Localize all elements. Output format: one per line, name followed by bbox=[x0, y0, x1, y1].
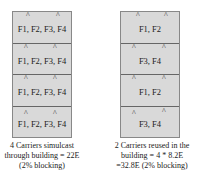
floor-label: F1, F2, F3, F4 bbox=[13, 56, 71, 66]
antenna-icon: ^ bbox=[56, 12, 60, 20]
caption-line: building = 4 * 8.2E bbox=[102, 151, 202, 161]
floor: ^^F1, F2, F3, F4 bbox=[13, 12, 71, 44]
floor-label: F3, F4 bbox=[121, 56, 179, 66]
antenna-icon: ^ bbox=[132, 44, 136, 52]
floor-label: F1, F2 bbox=[121, 87, 179, 97]
caption-line: (2% blocking) bbox=[0, 161, 92, 171]
antenna-icon: ^ bbox=[132, 110, 136, 118]
floor: ^^F1, F2, F3, F4 bbox=[13, 107, 71, 139]
caption-line: 4 Carriers simulcast bbox=[0, 141, 92, 151]
caption-line: 2 Carriers reused in the bbox=[102, 141, 202, 151]
antenna-icon: ^ bbox=[132, 75, 136, 83]
antenna-icon: ^ bbox=[136, 12, 140, 20]
antenna-icon: ^ bbox=[24, 75, 28, 83]
antenna-icon: ^ bbox=[164, 12, 168, 20]
antenna-icon: ^ bbox=[53, 44, 57, 52]
antenna-icon: ^ bbox=[53, 110, 57, 118]
antenna-icon: ^ bbox=[162, 75, 166, 83]
antenna-icon: ^ bbox=[162, 108, 166, 116]
caption-line: =32.8E (2% blocking) bbox=[102, 161, 202, 171]
floor: ^^F1, F2, F3, F4 bbox=[13, 75, 71, 107]
antenna-icon: ^ bbox=[24, 110, 28, 118]
floor: ^^F3, F4 bbox=[121, 107, 179, 139]
caption-line: through building = 22E bbox=[0, 151, 92, 161]
right-caption: 2 Carriers reused in the building = 4 * … bbox=[102, 141, 202, 171]
left-caption: 4 Carriers simulcast through building = … bbox=[0, 141, 92, 171]
floor-label: F1, F2, F3, F4 bbox=[13, 119, 71, 129]
right-building: ^^F1, F2 ^^F3, F4 ^^F1, F2 ^^F3, F4 bbox=[120, 11, 180, 138]
floor: ^^F1, F2 bbox=[121, 75, 179, 107]
antenna-icon: ^ bbox=[162, 44, 166, 52]
floor-label: F1, F2, F3, F4 bbox=[13, 24, 71, 34]
floor: ^^F1, F2 bbox=[121, 12, 179, 44]
antenna-icon: ^ bbox=[24, 44, 28, 52]
left-building: ^^F1, F2, F3, F4 ^^F1, F2, F3, F4 ^^F1, … bbox=[12, 11, 72, 138]
antenna-icon: ^ bbox=[26, 12, 30, 20]
floor: ^^F1, F2, F3, F4 bbox=[13, 44, 71, 76]
floor-label: F3, F4 bbox=[121, 119, 179, 129]
floor: ^^F3, F4 bbox=[121, 44, 179, 76]
floor-label: F1, F2 bbox=[121, 24, 179, 34]
floor-label: F1, F2, F3, F4 bbox=[13, 87, 71, 97]
antenna-icon: ^ bbox=[53, 75, 57, 83]
